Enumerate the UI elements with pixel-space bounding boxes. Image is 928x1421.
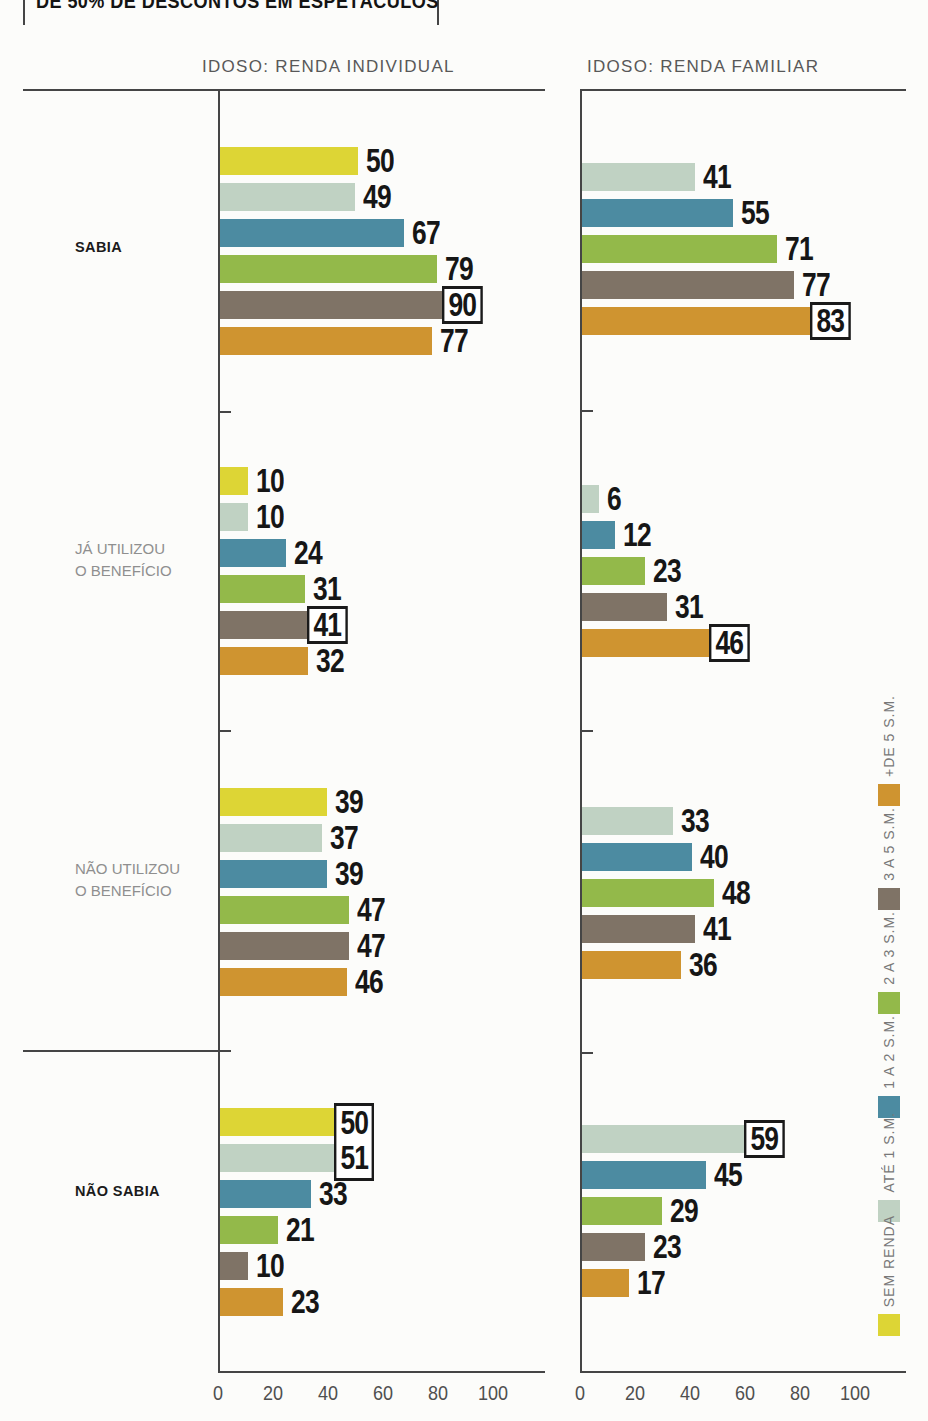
bar-value-label: 36: [689, 947, 717, 983]
x-axis-tick-label: 40: [670, 1382, 710, 1405]
bar-de-5-s-m: [220, 647, 308, 675]
bar-at-1-s-m: [582, 1125, 744, 1153]
x-axis-tick-label: 60: [363, 1382, 403, 1405]
bar-1-a-2-s-m: [220, 539, 286, 567]
magazine-chart-page: DE 50% DE DESCONTOS EM ESPETÁCULOS IDOSO…: [0, 0, 928, 1421]
bar-row: 10: [218, 1252, 545, 1280]
bar-row: 41: [580, 163, 906, 191]
x-axis-tick-label: 20: [253, 1382, 293, 1405]
title-box-left-border: [23, 0, 25, 25]
row-label-n-o-sabia: NÃO SABIA: [75, 1181, 215, 1202]
bar-value-label: 47: [357, 892, 385, 928]
bar-2-a-3-s-m: [582, 879, 714, 907]
bar-1-a-2-s-m: [220, 219, 404, 247]
bar-de-5-s-m: [582, 307, 810, 335]
bar-value-label: 41: [703, 159, 731, 195]
legend-swatch-2-a-3-s-m: [878, 992, 900, 1014]
bar-row: 23: [580, 557, 906, 585]
bar-row: 31: [218, 575, 545, 603]
bar-2-a-3-s-m: [220, 896, 349, 924]
bar-row: 50: [218, 1108, 545, 1136]
bar-3-a-5-s-m: [220, 1252, 248, 1280]
chart-right-plot-area: 4155717783612233146334048413659452923170…: [580, 90, 906, 1372]
bar-row: 10: [218, 467, 545, 495]
bar-value-label: 71: [785, 231, 813, 267]
legend-label: 3 A 5 S.M.: [881, 807, 897, 881]
bar-row: 40: [580, 843, 906, 871]
bar-row: 47: [218, 896, 545, 924]
bar-at-1-s-m: [220, 503, 248, 531]
legend-entry-de-5-s-m: +DE 5 S.M.: [872, 695, 906, 806]
bar-value-label: 21: [286, 1212, 314, 1248]
bar-sem-renda: [220, 467, 248, 495]
bar-value-label: 23: [653, 1229, 681, 1265]
row-label-j-utilizou: JÁ UTILIZOU O BENEFÍCIO: [75, 538, 215, 582]
bar-3-a-5-s-m: [582, 1233, 645, 1261]
bar-3-a-5-s-m: [582, 915, 695, 943]
legend-swatch-de-5-s-m: [878, 784, 900, 806]
x-axis-tick-label: 60: [725, 1382, 765, 1405]
bar-row: 41: [580, 915, 906, 943]
left-chart-title: IDOSO: RENDA INDIVIDUAL: [202, 57, 455, 77]
bar-row: 6: [580, 485, 906, 513]
x-axis-tick-label: 0: [198, 1382, 238, 1405]
bar-row: 77: [218, 327, 545, 355]
bar-value-label: 39: [335, 856, 363, 892]
bar-at-1-s-m: [220, 824, 322, 852]
bar-row: 23: [218, 1288, 545, 1316]
bar-value-label: 55: [741, 195, 769, 231]
bar-row: 83: [580, 307, 906, 335]
bar-at-1-s-m: [582, 807, 673, 835]
bar-row: 33: [218, 1180, 545, 1208]
bar-row: 31: [580, 593, 906, 621]
bar-at-1-s-m: [582, 485, 599, 513]
bar-row: 41: [218, 611, 545, 639]
x-axis-tick-label: 100: [473, 1382, 513, 1405]
bar-2-a-3-s-m: [220, 575, 305, 603]
bar-value-label: 23: [291, 1284, 319, 1320]
bar-de-5-s-m: [220, 1288, 283, 1316]
bar-value-label: 17: [637, 1265, 665, 1301]
bar-row: 23: [580, 1233, 906, 1261]
bar-de-5-s-m: [220, 968, 347, 996]
bar-2-a-3-s-m: [582, 1197, 662, 1225]
legend-entry-1-a-2-s-m: 1 A 2 S.M.: [872, 1015, 906, 1118]
bar-row: 50: [218, 147, 545, 175]
bar-value-label: 37: [330, 820, 358, 856]
legend-entry-3-a-5-s-m: 3 A 5 S.M.: [872, 807, 906, 910]
bar-row: 10: [218, 503, 545, 531]
x-axis-tick-label: 80: [418, 1382, 458, 1405]
bar-row: 46: [580, 629, 906, 657]
bar-2-a-3-s-m: [220, 255, 437, 283]
bar-value-label: 45: [714, 1157, 742, 1193]
bar-de-5-s-m: [582, 629, 709, 657]
bar-value-label: 33: [319, 1176, 347, 1212]
bar-row: 32: [218, 647, 545, 675]
legend-entry-at-1-s-m: ATÉ 1 S.M.: [872, 1112, 906, 1222]
bar-value-label-boxed: 41: [307, 606, 348, 644]
bar-de-5-s-m: [582, 1269, 629, 1297]
clipped-title: DE 50% DE DESCONTOS EM ESPETÁCULOS: [36, 0, 456, 13]
x-axis-tick-label: 0: [560, 1382, 600, 1405]
bar-value-label: 67: [412, 215, 440, 251]
x-axis-tick-label: 80: [780, 1382, 820, 1405]
bar-value-label: 31: [675, 589, 703, 625]
bar-row: 59: [580, 1125, 906, 1153]
bar-value-label: 10: [256, 463, 284, 499]
bar-value-label: 6: [607, 481, 621, 517]
row-label-n-o-utilizou: NÃO UTILIZOU O BENEFÍCIO: [75, 858, 215, 902]
bar-row: 45: [580, 1161, 906, 1189]
legend-label: 1 A 2 S.M.: [881, 1015, 897, 1089]
bar-row: 39: [218, 860, 545, 888]
bar-at-1-s-m: [220, 183, 355, 211]
bar-3-a-5-s-m: [220, 932, 349, 960]
bar-value-label: 47: [357, 928, 385, 964]
bar-value-label: 46: [355, 964, 383, 1000]
bar-value-label-boxed: 83: [810, 302, 851, 340]
legend-swatch-sem-renda: [878, 1314, 900, 1336]
bar-row: 21: [218, 1216, 545, 1244]
bar-value-label: 41: [703, 911, 731, 947]
bar-2-a-3-s-m: [582, 235, 777, 263]
bar-value-label: 10: [256, 1248, 284, 1284]
bar-row: 33: [580, 807, 906, 835]
